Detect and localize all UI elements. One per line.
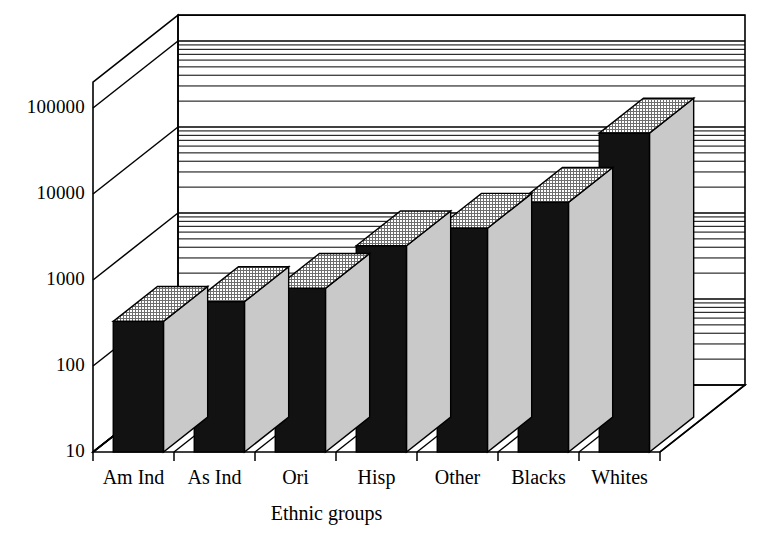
y-tick-label: 100 <box>56 354 85 375</box>
bar-am-ind[interactable] <box>113 287 207 452</box>
bar-whites[interactable] <box>599 98 693 452</box>
x-tick-label-am-ind: Am Ind <box>103 466 165 488</box>
y-tick-label: 10000 <box>37 182 86 203</box>
y-tick-label: 10 <box>66 440 85 461</box>
x-tick-label-whites: Whites <box>591 466 648 488</box>
chart-canvas: 10000010000100010010 Am IndAs IndOriHisp… <box>0 0 762 554</box>
x-tick-label-blacks: Blacks <box>511 466 566 488</box>
x-axis-title: Ethnic groups <box>271 502 383 525</box>
bar-hisp[interactable] <box>356 211 450 452</box>
x-tick-label-ori: Ori <box>282 466 309 488</box>
x-tick-label-other: Other <box>435 466 481 488</box>
bar-ori[interactable] <box>275 253 369 452</box>
bars-group <box>113 98 693 452</box>
y-tick-label: 1000 <box>46 268 85 289</box>
y-tick-label: 100000 <box>27 96 85 117</box>
x-tick-label-as-ind: As Ind <box>188 466 242 488</box>
category-labels: Am IndAs IndOriHispOtherBlacksWhites <box>103 466 648 489</box>
bar-blacks[interactable] <box>518 167 612 452</box>
bar-chart-3d: 10000010000100010010 Am IndAs IndOriHisp… <box>0 0 762 554</box>
bar-as-ind[interactable] <box>194 267 288 452</box>
bar-other[interactable] <box>437 193 531 452</box>
x-tick-label-hisp: Hisp <box>358 466 396 489</box>
